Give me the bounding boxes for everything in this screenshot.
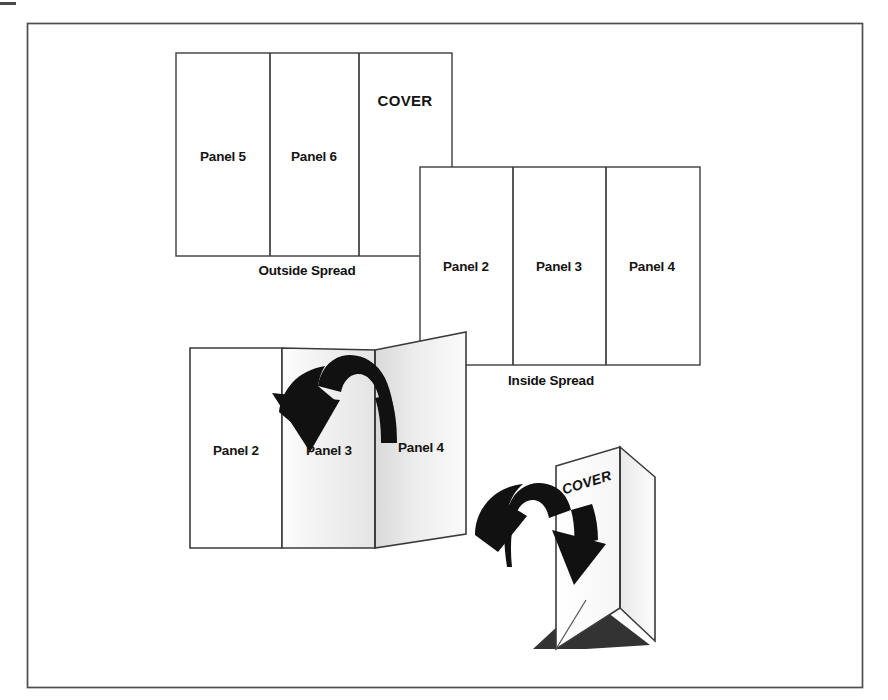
inside-panel-label-3: Panel 4 bbox=[629, 259, 676, 274]
outside-spread-caption: Outside Spread bbox=[259, 263, 356, 278]
brochure-fold-diagram: Panel 5 Panel 6 COVER Outside Spread Pan… bbox=[0, 0, 888, 700]
outside-spread-group: Panel 5 Panel 6 COVER Outside Spread bbox=[176, 53, 452, 278]
fold2-back-face bbox=[620, 447, 655, 641]
outside-panel-label-cover: COVER bbox=[378, 92, 433, 109]
folding-step-1-group: Panel 2 Panel 3 Panel 4 bbox=[190, 332, 466, 548]
outside-panel-label-2: Panel 6 bbox=[291, 149, 338, 164]
inside-panel-label-2: Panel 3 bbox=[536, 259, 583, 274]
inside-panel-label-1: Panel 2 bbox=[443, 259, 489, 274]
fold1-panel-label-3: Panel 4 bbox=[398, 440, 445, 455]
fold1-panel-label-1: Panel 2 bbox=[213, 443, 259, 458]
inside-spread-caption: Inside Spread bbox=[508, 373, 594, 388]
diagram-canvas: Panel 5 Panel 6 COVER Outside Spread Pan… bbox=[0, 0, 888, 700]
crop-mark-icon bbox=[0, 2, 16, 5]
outside-panel-label-1: Panel 5 bbox=[200, 149, 247, 164]
